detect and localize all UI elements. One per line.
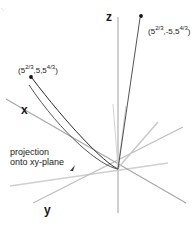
x-axis-label: x xyxy=(21,104,28,118)
data-point-right-marker xyxy=(139,14,143,18)
point-left-exponent-2: 4/3 xyxy=(47,64,55,70)
projection-pointer-icon xyxy=(70,165,75,171)
projection-annotation: projection onto xy-plane xyxy=(10,147,64,168)
point-left-middle: ,5,5 xyxy=(33,66,46,75)
projection-annotation-line-1: projection xyxy=(10,147,64,157)
projection-annotation-line-2: onto xy-plane xyxy=(10,157,64,167)
y-axis-label: y xyxy=(44,204,51,218)
data-point-right-label: (52/3,-5,54/3) xyxy=(148,27,191,36)
z-axis-label: z xyxy=(106,11,112,25)
point-right-suffix: ) xyxy=(188,27,191,36)
auxiliary-ray-steep-b xyxy=(113,104,118,168)
data-point-left-label: (52/3,5,54/3) xyxy=(18,66,58,75)
border-artifact-mark xyxy=(1,8,4,11)
point-right-middle: ,-5,5 xyxy=(163,27,179,36)
data-point-left-marker xyxy=(29,75,33,79)
three-d-plot-figure: z x y (52/3,-5,54/3) (52/3,5,54/3) proje… xyxy=(0,0,194,228)
point-right-exponent-2: 4/3 xyxy=(179,25,187,31)
point-left-suffix: ) xyxy=(55,66,58,75)
